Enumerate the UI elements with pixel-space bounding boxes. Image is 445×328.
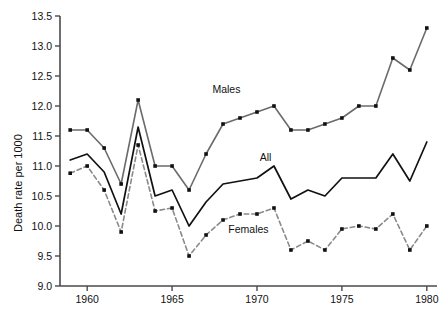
y-tick-label: 9.5 [37,250,52,262]
x-tick-label: 1960 [75,293,99,305]
data-point-marker [391,56,395,60]
data-point-marker [204,233,208,237]
series-label-males: Males [212,83,240,95]
y-tick-label: 10.0 [32,220,53,232]
y-tick-label: 12.5 [32,70,53,82]
y-tick-label: 9.0 [37,280,52,292]
data-point-marker [68,171,72,175]
data-point-marker [119,182,123,186]
data-point-marker [85,128,89,132]
data-point-marker [323,248,327,252]
data-point-marker [357,224,361,228]
data-point-marker [102,146,106,150]
data-point-marker [289,128,293,132]
data-point-marker [340,227,344,231]
data-point-marker [68,128,72,132]
death-rate-line-chart: Death rate per 1000 9.09.510.010.511.011… [0,0,445,328]
y-tick-label: 12.0 [32,100,53,112]
data-point-marker [340,116,344,120]
y-tick-label: 10.5 [32,190,53,202]
data-point-marker [221,122,225,126]
data-point-marker [85,164,89,168]
data-point-marker [187,254,191,258]
data-point-marker [408,248,412,252]
data-point-marker [374,227,378,231]
data-point-marker [272,104,276,108]
data-point-marker [323,122,327,126]
x-axis: 19601965197019751980 [60,286,439,305]
data-point-marker [272,206,276,210]
data-point-marker [357,104,361,108]
data-point-marker [289,248,293,252]
data-point-marker [238,116,242,120]
y-tick-label: 13.5 [32,10,53,22]
x-tick-label: 1980 [415,293,439,305]
y-tick-label: 11.5 [32,130,52,142]
data-point-marker [153,209,157,213]
data-point-marker [306,128,310,132]
data-point-marker [204,152,208,156]
series-label-females: Females [228,223,268,235]
data-point-marker [255,110,259,114]
data-point-marker [170,164,174,168]
data-point-marker [221,218,225,222]
data-point-marker [391,212,395,216]
y-axis: 9.09.510.010.511.011.512.012.513.013.5 [32,10,60,292]
data-point-marker [153,164,157,168]
data-point-marker [306,239,310,243]
data-point-marker [374,104,378,108]
series-line-all [70,127,427,226]
data-point-marker [170,206,174,210]
plot-area: 9.09.510.010.511.011.512.012.513.013.5 1… [0,0,445,328]
data-point-marker [238,212,242,216]
data-point-marker [119,230,123,234]
data-point-marker [136,143,140,147]
x-tick-label: 1970 [245,293,269,305]
data-point-marker [187,188,191,192]
y-tick-label: 13.0 [32,40,53,52]
x-tick-label: 1975 [330,293,354,305]
data-point-marker [425,26,429,30]
series-label-all: All [260,151,272,163]
data-point-marker [255,212,259,216]
data-point-marker [408,68,412,72]
data-point-marker [136,98,140,102]
data-point-marker [102,188,106,192]
x-tick-label: 1965 [160,293,184,305]
data-point-marker [425,224,429,228]
series-line-males [70,28,427,190]
y-tick-label: 11.0 [32,160,52,172]
